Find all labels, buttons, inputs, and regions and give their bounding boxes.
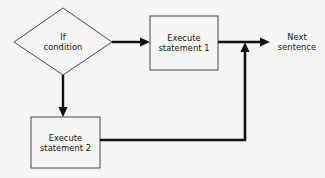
- arrowhead-statement-1-to-next: [260, 37, 270, 46]
- flowchart-graphics: [0, 0, 325, 178]
- flowchart-canvas: If condition Execute statement 1 Execute…: [0, 0, 325, 178]
- arrowhead-condition-to-statement-1: [140, 37, 150, 46]
- node-execute-statement-2-shape: [31, 117, 100, 168]
- arrowhead-statement-2-to-merge: [240, 42, 249, 52]
- node-execute-statement-1-shape: [150, 16, 218, 70]
- arrowhead-condition-to-statement-2: [58, 107, 67, 117]
- node-if-condition-shape: [14, 8, 112, 75]
